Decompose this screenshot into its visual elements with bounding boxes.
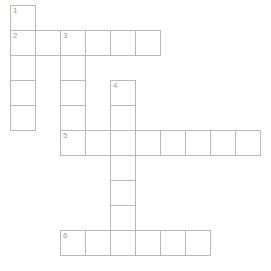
crossword-cell[interactable] bbox=[185, 130, 211, 156]
cell-number: 1 bbox=[13, 6, 17, 16]
cell-number: 6 bbox=[63, 231, 67, 241]
crossword-cell[interactable] bbox=[160, 130, 186, 156]
crossword-cell[interactable] bbox=[60, 105, 86, 131]
crossword-cell[interactable] bbox=[10, 55, 36, 81]
crossword-cell[interactable] bbox=[135, 30, 161, 56]
crossword-cell[interactable] bbox=[110, 130, 136, 156]
crossword-cell[interactable] bbox=[35, 30, 61, 56]
cell-number: 3 bbox=[63, 31, 67, 41]
crossword-cell[interactable] bbox=[135, 130, 161, 156]
crossword-cell[interactable] bbox=[135, 230, 161, 256]
cell-number: 2 bbox=[13, 31, 17, 41]
crossword-grid: 123456 bbox=[0, 0, 271, 271]
crossword-cell[interactable]: 6 bbox=[60, 230, 86, 256]
crossword-cell[interactable] bbox=[10, 105, 36, 131]
crossword-cell[interactable] bbox=[235, 130, 261, 156]
crossword-cell[interactable]: 2 bbox=[10, 30, 36, 56]
crossword-cell[interactable] bbox=[85, 130, 111, 156]
crossword-cell[interactable] bbox=[85, 230, 111, 256]
crossword-cell[interactable] bbox=[10, 80, 36, 106]
crossword-cell[interactable]: 4 bbox=[110, 80, 136, 106]
crossword-cell[interactable] bbox=[110, 230, 136, 256]
crossword-cell[interactable] bbox=[160, 230, 186, 256]
cell-number: 5 bbox=[63, 131, 67, 141]
crossword-cell[interactable] bbox=[110, 105, 136, 131]
crossword-cell[interactable] bbox=[185, 230, 211, 256]
crossword-cell[interactable]: 1 bbox=[10, 5, 36, 31]
cell-number: 4 bbox=[113, 81, 117, 91]
crossword-cell[interactable] bbox=[60, 55, 86, 81]
crossword-cell[interactable] bbox=[110, 180, 136, 206]
crossword-cell[interactable] bbox=[110, 155, 136, 181]
crossword-cell[interactable]: 3 bbox=[60, 30, 86, 56]
crossword-cell[interactable] bbox=[110, 30, 136, 56]
crossword-cell[interactable] bbox=[210, 130, 236, 156]
crossword-cell[interactable] bbox=[85, 30, 111, 56]
crossword-cell[interactable] bbox=[110, 205, 136, 231]
crossword-cell[interactable] bbox=[60, 80, 86, 106]
crossword-cell[interactable]: 5 bbox=[60, 130, 86, 156]
